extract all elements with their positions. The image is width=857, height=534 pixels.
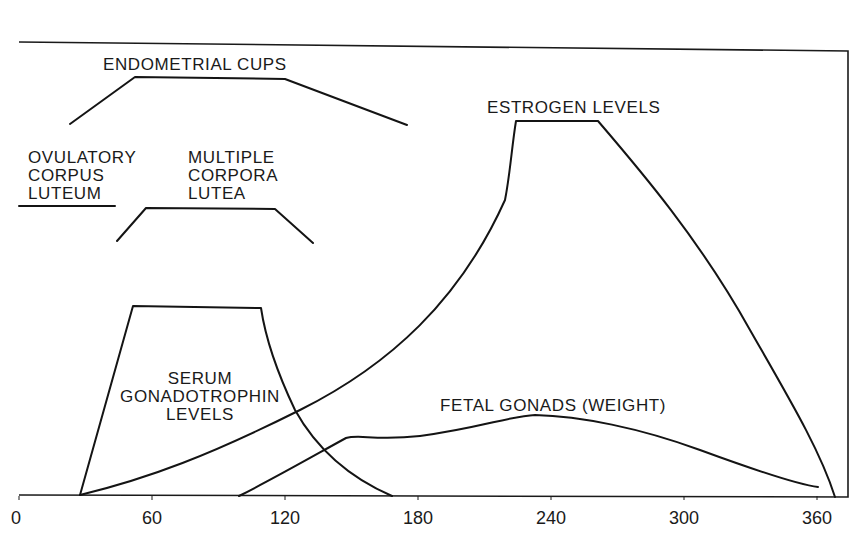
label-serum-gonadotrophin-line1: SERUM [168,369,232,388]
x-tick-label: 120 [270,508,300,528]
x-tick-label: 300 [669,508,699,528]
x-tick-label: 360 [802,508,832,528]
x-tick-label: 60 [142,508,162,528]
label-estrogen-levels: ESTROGEN LEVELS [487,98,660,117]
plot-frame [19,42,848,497]
endometrial-cups-curve [70,77,407,125]
label-serum-gonadotrophin-line2: GONADOTROPHIN [120,387,280,406]
pregnancy-timeline-chart: 060120180240300360 ENDOMETRIAL CUPS OVUL… [0,0,857,534]
label-multiple-corpora-lutea-line1: MULTIPLE [188,148,275,167]
fetal-gonads-weight-curve [239,415,818,496]
series-labels: ENDOMETRIAL CUPS OVULATORY CORPUS LUTEUM… [28,55,666,424]
label-ovulatory-corpus-luteum-line2: CORPUS [28,166,104,185]
label-fetal-gonads-weight: FETAL GONADS (WEIGHT) [440,396,666,415]
label-multiple-corpora-lutea-line3: LUTEA [188,184,246,203]
label-ovulatory-corpus-luteum-line1: OVULATORY [28,148,136,167]
label-endometrial-cups: ENDOMETRIAL CUPS [103,55,287,74]
multiple-corpora-lutea-curve [117,208,313,243]
x-tick-label: 180 [403,508,433,528]
label-multiple-corpora-lutea-line2: CORPORA [188,166,278,185]
label-ovulatory-corpus-luteum-line3: LUTEUM [28,184,102,203]
x-axis: 060120180240300360 [11,496,832,528]
x-tick-label: 0 [11,508,21,528]
x-tick-label: 240 [536,508,566,528]
label-serum-gonadotrophin-line3: LEVELS [166,405,234,424]
